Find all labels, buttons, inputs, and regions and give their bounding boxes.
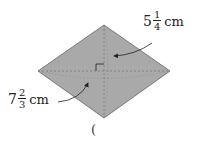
top-measure-numerator: 1 bbox=[153, 10, 161, 21]
left-measure-numerator: 2 bbox=[18, 88, 26, 99]
left-measure-denominator: 3 bbox=[19, 99, 25, 110]
top-measure-whole: 5 bbox=[143, 14, 152, 28]
left-measure-whole: 7 bbox=[8, 92, 17, 106]
top-measure-denominator: 4 bbox=[154, 21, 160, 32]
top-measure-fraction: 1 4 bbox=[153, 10, 161, 32]
answer-blank: ( bbox=[91, 122, 96, 137]
top-measure-label: 5 1 4 cm bbox=[143, 10, 184, 32]
left-measure-fraction: 2 3 bbox=[18, 88, 26, 110]
top-measure-unit: cm bbox=[164, 15, 184, 28]
left-measure-unit: cm bbox=[29, 93, 49, 106]
left-measure-label: 7 2 3 cm bbox=[8, 88, 49, 110]
